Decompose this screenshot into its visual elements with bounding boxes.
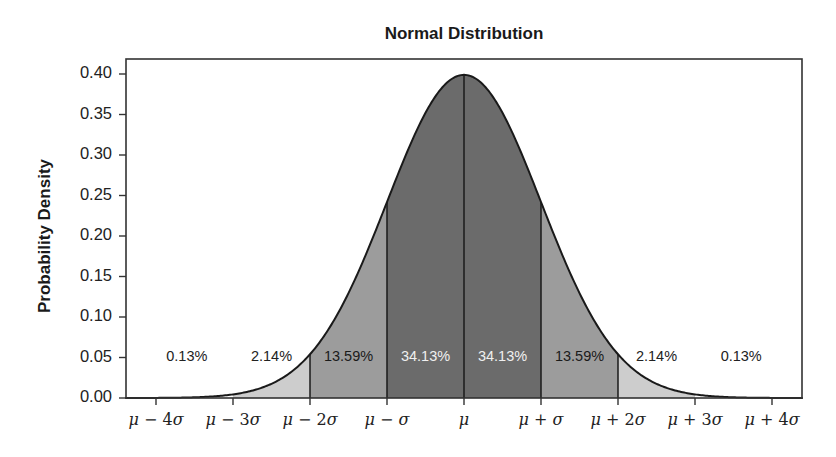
y-tick-label: 0.05 bbox=[80, 347, 112, 365]
y-tick-label: 0.00 bbox=[80, 387, 112, 405]
region-label: 2.14% bbox=[636, 348, 677, 364]
x-tick-label: μ + 3σ bbox=[667, 410, 723, 429]
region-label: 0.13% bbox=[166, 348, 207, 364]
y-tick-label: 0.15 bbox=[80, 266, 112, 284]
region-label: 13.59% bbox=[324, 348, 373, 364]
region-label: 34.13% bbox=[478, 348, 527, 364]
y-tick-label: 0.20 bbox=[80, 225, 112, 243]
y-axis-label: Probability Density bbox=[35, 158, 54, 313]
y-tick-label: 0.25 bbox=[80, 185, 112, 203]
y-tick-label: 0.30 bbox=[80, 144, 112, 162]
x-tick-label: μ − 2σ bbox=[282, 410, 338, 429]
region-label: 0.13% bbox=[721, 348, 762, 364]
region-label: 34.13% bbox=[401, 348, 450, 364]
y-axis: 0.000.050.100.150.200.250.300.350.40 bbox=[80, 63, 126, 405]
x-tick-label: μ − 3σ bbox=[205, 410, 261, 429]
x-tick-label: μ − 4σ bbox=[128, 410, 184, 429]
x-tick-label: μ + 4σ bbox=[744, 410, 800, 429]
region-label: 13.59% bbox=[555, 348, 604, 364]
x-tick-label: μ bbox=[459, 410, 469, 429]
x-tick-label: μ + σ bbox=[519, 410, 565, 429]
region-label: 2.14% bbox=[251, 348, 292, 364]
x-tick-label: μ − σ bbox=[365, 410, 411, 429]
normal-distribution-chart: Normal Distribution Probability Density … bbox=[0, 0, 836, 457]
chart-title: Normal Distribution bbox=[385, 24, 544, 43]
y-tick-label: 0.40 bbox=[80, 63, 112, 81]
y-tick-label: 0.35 bbox=[80, 104, 112, 122]
x-tick-label: μ + 2σ bbox=[590, 410, 646, 429]
y-tick-label: 0.10 bbox=[80, 306, 112, 324]
x-axis: μ − 4σμ − 3σμ − 2σμ − σμμ + σμ + 2σμ + 3… bbox=[128, 398, 800, 429]
